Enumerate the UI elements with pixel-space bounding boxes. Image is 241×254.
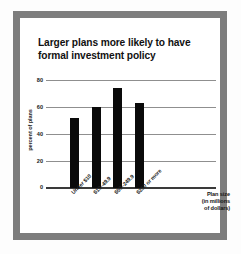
bar-250-or-more: $250 or more bbox=[135, 103, 144, 188]
bar-under-10: Under $10 bbox=[70, 118, 79, 188]
gridline-60: 60 bbox=[46, 107, 216, 108]
y-axis-label: percent of plans bbox=[25, 80, 34, 180]
x-axis-label-line-3: of dollars) bbox=[170, 205, 230, 212]
chart-title-line-2: formal investment policy bbox=[38, 49, 206, 62]
x-tick-label-3: $250 or more bbox=[135, 168, 163, 196]
y-tick-label-40: 40 bbox=[37, 131, 43, 137]
chart-title-line-1: Larger plans more likely to have bbox=[38, 36, 206, 49]
bar-chart: Larger plans more likely to have formal … bbox=[20, 18, 220, 233]
x-tick-label-2: $50–249.9 bbox=[113, 173, 135, 195]
plot-area: 80 60 40 20 0 Unde bbox=[46, 80, 216, 188]
x-tick-label-1: $10–49.9 bbox=[92, 175, 112, 195]
y-tick-label-60: 60 bbox=[37, 104, 43, 110]
y-tick-label-80: 80 bbox=[37, 77, 43, 83]
screenshot-root: Larger plans more likely to have formal … bbox=[0, 0, 241, 254]
y-tick-label-0: 0 bbox=[40, 184, 43, 190]
chart-title: Larger plans more likely to have formal … bbox=[38, 36, 206, 62]
x-axis-label: Plan size (in millions of dollars) bbox=[170, 191, 230, 212]
chart-frame-inner: Larger plans more likely to have formal … bbox=[20, 18, 220, 233]
x-tick-label-0: Under $10 bbox=[70, 173, 92, 195]
y-tick-label-20: 20 bbox=[37, 158, 43, 164]
x-axis-label-line-2: (in millions bbox=[170, 198, 230, 205]
x-axis-label-line-1: Plan size bbox=[170, 191, 230, 198]
y-axis-label-text: percent of plans bbox=[27, 109, 33, 151]
bar-10-49-9: $10–49.9 bbox=[92, 107, 101, 188]
bar-50-249-9: $50–249.9 bbox=[113, 88, 122, 188]
chart-frame-border: Larger plans more likely to have formal … bbox=[13, 11, 227, 240]
gridline-80: 80 bbox=[46, 80, 216, 81]
